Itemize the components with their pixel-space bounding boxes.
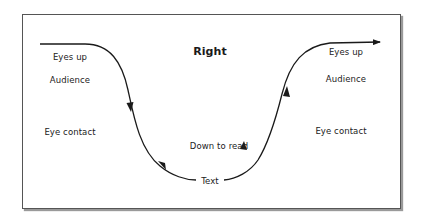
down-to-read-label: Down to read	[190, 141, 248, 151]
descending-curve	[40, 44, 196, 180]
right-eyes-up-label: Eyes up	[329, 47, 363, 57]
diagram-title: Right	[193, 45, 227, 58]
right-eye-contact-label: Eye contact	[315, 126, 366, 136]
eye-movement-curve	[0, 0, 422, 224]
left-eyes-up-label: Eyes up	[53, 52, 87, 62]
left-eye-contact-label: Eye contact	[44, 127, 95, 137]
ascending-curve	[224, 42, 380, 180]
right-audience-label: Audience	[326, 74, 366, 84]
text-label: Text	[201, 176, 219, 186]
left-audience-label: Audience	[50, 75, 90, 85]
